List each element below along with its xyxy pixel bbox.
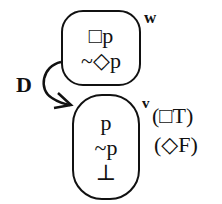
world-label-v: v <box>142 95 150 112</box>
annotation-diamond-F: (◇F) <box>154 132 198 158</box>
formula-not-p: ~p <box>95 135 118 160</box>
formula-not-diamond-p: ~◇p <box>81 48 121 73</box>
world-w-box: □p ~◇p <box>61 10 141 86</box>
annotation-box-T: (□T) <box>152 103 193 129</box>
world-label-w: w <box>144 8 156 28</box>
formula-box-p: □p <box>89 23 113 48</box>
world-v-box: p ~p ⊥ <box>72 94 140 200</box>
formula-p: p <box>101 110 112 135</box>
formula-bottom: ⊥ <box>96 160 117 185</box>
edge-label-D: D <box>16 72 32 98</box>
